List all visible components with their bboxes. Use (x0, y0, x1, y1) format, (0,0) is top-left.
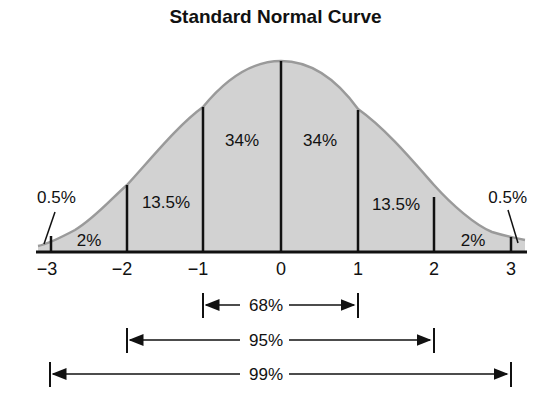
label-region-0-1: 34% (303, 131, 337, 150)
label-region-1-0: 34% (225, 131, 259, 150)
label-right-tail: 0.5% (488, 188, 527, 207)
label-region-2-3: 2% (461, 231, 486, 250)
range-68-label: 68% (249, 296, 283, 315)
tick-label: 3 (506, 259, 516, 279)
tick-label: 1 (353, 259, 363, 279)
label-left-tail: 0.5% (37, 188, 76, 207)
normal-curve-chart: 0.5% 2% 13.5% 34% 34% 13.5% 2% 0.5% −3 −… (0, 0, 551, 401)
pointer-left-tail (44, 212, 55, 244)
label-region-1-2: 13.5% (372, 195, 420, 214)
label-region-2-1: 13.5% (142, 193, 190, 212)
tick-label: −1 (188, 259, 209, 279)
range-95-label: 95% (249, 331, 283, 350)
tick-label: 2 (429, 259, 439, 279)
tick-label: −2 (112, 259, 133, 279)
label-region-3-2: 2% (77, 231, 102, 250)
tick-label: 0 (276, 259, 286, 279)
range-99-label: 99% (249, 365, 283, 384)
tick-label: −3 (37, 259, 58, 279)
